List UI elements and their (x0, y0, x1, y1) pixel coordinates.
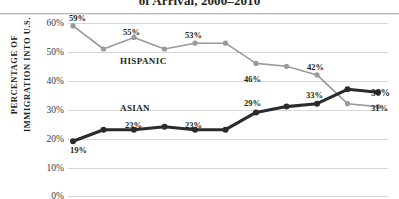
series-label-asian: ASIAN (120, 103, 150, 113)
datalabel-hispanic-2008: 42% (307, 63, 324, 72)
plot-area: HISPANIC ASIAN 59% 55% 53% 46% 42% 31% 1… (68, 0, 388, 199)
datalabel-hispanic-2000: 59% (69, 14, 86, 23)
y-tick-10: 10% (47, 163, 64, 173)
series-lines (68, 0, 388, 199)
y-tick-0: 0% (51, 191, 64, 199)
asian-line (73, 89, 378, 141)
y-tick-60: 60% (47, 18, 64, 28)
datalabel-asian-2000: 19% (70, 146, 87, 155)
y-tick-30: 30% (47, 105, 64, 115)
y-tick-40: 40% (47, 76, 64, 86)
y-axis-title: PERCENTAGE OF IMMIGRATION INTO U.S. (8, 0, 33, 155)
y-tick-50: 50% (47, 47, 64, 57)
hispanic-line (73, 26, 378, 107)
y-axis-title-line2: IMMIGRATION INTO U.S. (20, 0, 33, 155)
series-label-hispanic: HISPANIC (120, 56, 167, 66)
datalabel-hispanic-2006: 46% (244, 75, 261, 84)
y-axis-tick-labels: 60% 50% 40% 30% 20% 10% 0% (34, 0, 64, 199)
datalabel-hispanic-2010: 31% (371, 104, 388, 113)
datalabel-asian-2006: 29% (244, 99, 261, 108)
datalabel-asian-2002: 23% (125, 121, 142, 130)
datalabel-asian-2010: 36% (371, 89, 390, 98)
chart-container: of Arrival, 2000–2010 PERCENTAGE OF IMMI… (0, 0, 399, 199)
datalabel-asian-2004: 23% (185, 121, 202, 130)
y-tick-20: 20% (47, 134, 64, 144)
y-axis-title-line1: PERCENTAGE OF (8, 0, 21, 155)
datalabel-hispanic-2004: 53% (185, 31, 202, 40)
datalabel-asian-2008: 33% (306, 91, 323, 100)
datalabel-hispanic-2002: 55% (123, 28, 140, 37)
